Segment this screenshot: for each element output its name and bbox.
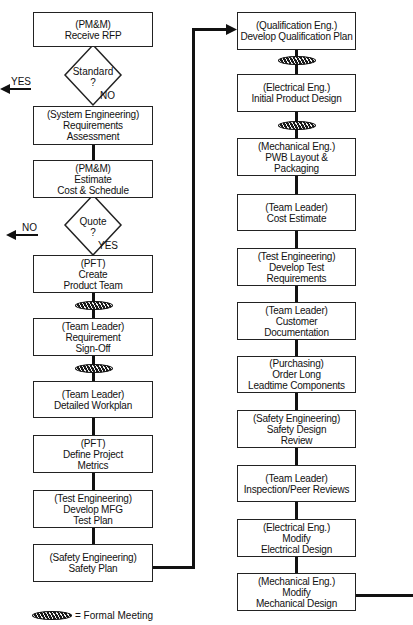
test-requirements-box: (Test Engineering) Develop Test Requirem… — [237, 248, 356, 286]
yes-arrow-line — [8, 88, 31, 90]
step-label: Initial Product Design — [251, 93, 341, 104]
step-label: Develop Test — [269, 262, 324, 273]
step-label: Order Long — [272, 369, 321, 380]
step-label: Product Team — [63, 280, 122, 291]
role-label: (Team Leader) — [62, 321, 124, 332]
connector — [192, 28, 228, 31]
formal-meeting-icon — [278, 121, 316, 130]
step-label: Sign-Off — [76, 343, 111, 354]
connector — [92, 528, 95, 545]
formal-meeting-icon — [32, 611, 72, 620]
step-label: Leadtime Components — [248, 380, 345, 391]
role-label: (Team Leader) — [265, 473, 327, 484]
role-label: (System Engineering) — [47, 109, 139, 120]
connector — [355, 594, 413, 597]
role-label: (Electrical Eng.) — [263, 82, 330, 93]
role-label: (Safety Engineering) — [253, 413, 340, 424]
step-label: Safety Plan — [69, 563, 118, 574]
role-label: (PM&M) — [75, 19, 110, 30]
step-label: Cost & Schedule — [57, 185, 129, 196]
step-label: Metrics — [78, 460, 109, 471]
peer-reviews-box: (Team Leader) Inspection/Peer Reviews — [237, 465, 356, 502]
initial-design-box: (Electrical Eng.) Initial Product Design — [237, 74, 356, 112]
connector — [295, 557, 298, 574]
connector — [295, 340, 298, 357]
formal-meeting-icon — [75, 364, 113, 373]
step-label: Inspection/Peer Reviews — [244, 484, 349, 495]
order-components-box: (Purchasing) Order Long Leadtime Compone… — [237, 356, 356, 393]
step-label: Requirements — [267, 273, 327, 284]
step-label: Packaging — [274, 163, 319, 174]
role-label: (PFT) — [81, 258, 106, 269]
connector — [92, 145, 95, 161]
role-label: (Test Engineering) — [258, 251, 336, 262]
modify-electrical-box: (Electrical Eng.) Modify Electrical Desi… — [237, 519, 356, 557]
step-label: Develop MFG — [63, 504, 123, 515]
standard-no-label: NO — [100, 90, 115, 101]
cost-estimate-box: (Team Leader) Cost Estimate — [237, 194, 356, 231]
no-arrow-line — [14, 234, 38, 236]
customer-documentation-box: (Team Leader) Customer Documentation — [237, 302, 356, 340]
step-label: Cost Estimate — [267, 213, 327, 224]
step-label: Define Project — [63, 449, 123, 460]
step-label: Requirement — [65, 332, 120, 343]
requirement-signoff-box: (Team Leader) Requirement Sign-Off — [33, 318, 153, 356]
legend-label: = Formal Meeting — [75, 610, 153, 621]
requirements-assessment-box: (System Engineering) Requirements Assess… — [33, 106, 153, 145]
role-label: (Qualification Eng.) — [256, 20, 337, 31]
step-label: Modify — [282, 587, 310, 598]
role-label: (Mechanical Eng.) — [258, 576, 335, 587]
connector — [295, 393, 298, 411]
step-label: Receive RFP — [65, 30, 122, 41]
formal-meeting-icon — [75, 301, 113, 310]
connector — [92, 418, 95, 436]
role-label: (Test Engineering) — [54, 493, 132, 504]
qualification-plan-box: (Qualification Eng.) Develop Qualificati… — [237, 12, 356, 50]
role-label: (PM&M) — [75, 163, 110, 174]
connector — [153, 566, 195, 569]
connector — [295, 286, 298, 303]
step-label: PWB Layout & — [265, 152, 328, 163]
step-label: Safety Design — [267, 424, 327, 435]
step-label: Detailed Workplan — [54, 400, 132, 411]
detailed-workplan-box: (Team Leader) Detailed Workplan — [33, 381, 153, 418]
standard-question: Standard ? — [63, 66, 123, 88]
step-label: Develop Qualification Plan — [240, 31, 352, 42]
connector — [192, 28, 195, 569]
standard-yes-label: YES — [11, 76, 31, 87]
step-label: Review — [281, 435, 313, 446]
quote-yes-label: YES — [98, 240, 118, 251]
step-label: Mechanical Design — [256, 598, 337, 609]
connector — [295, 176, 298, 195]
connector — [295, 448, 298, 466]
role-label: (Electrical Eng.) — [263, 522, 330, 533]
pwb-layout-box: (Mechanical Eng.) PWB Layout & Packaging — [237, 138, 356, 176]
step-label: Estimate — [74, 174, 111, 185]
role-label: (Team Leader) — [265, 202, 327, 213]
step-label: Assessment — [67, 131, 119, 142]
safety-plan-box: (Safety Engineering) Safety Plan — [33, 544, 153, 582]
role-label: (Team Leader) — [265, 305, 327, 316]
step-label: Documentation — [264, 327, 329, 338]
step-label: Test Plan — [73, 515, 112, 526]
role-label: (Mechanical Eng.) — [258, 141, 335, 152]
connector — [295, 231, 298, 249]
step-label: Electrical Design — [261, 544, 332, 555]
create-team-box: (PFT) Create Product Team — [33, 255, 153, 293]
receive-rfp-box: (PM&M) Receive RFP — [33, 12, 153, 47]
role-label: (Purchasing) — [269, 358, 323, 369]
quote-no-label: NO — [22, 222, 37, 233]
modify-mechanical-box: (Mechanical Eng.) Modify Mechanical Desi… — [237, 573, 356, 611]
step-label: Customer — [276, 316, 318, 327]
step-label: Create — [79, 269, 108, 280]
arrow-left-icon — [6, 230, 16, 240]
role-label: (Team Leader) — [62, 389, 124, 400]
arrow-left-icon — [0, 84, 10, 94]
connector — [295, 502, 298, 520]
formal-meeting-icon — [278, 56, 316, 65]
step-label: Modify — [282, 533, 310, 544]
role-label: (PFT) — [81, 438, 106, 449]
connector — [92, 473, 95, 491]
safety-review-box: (Safety Engineering) Safety Design Revie… — [237, 410, 356, 448]
mfg-test-plan-box: (Test Engineering) Develop MFG Test Plan — [33, 490, 153, 528]
